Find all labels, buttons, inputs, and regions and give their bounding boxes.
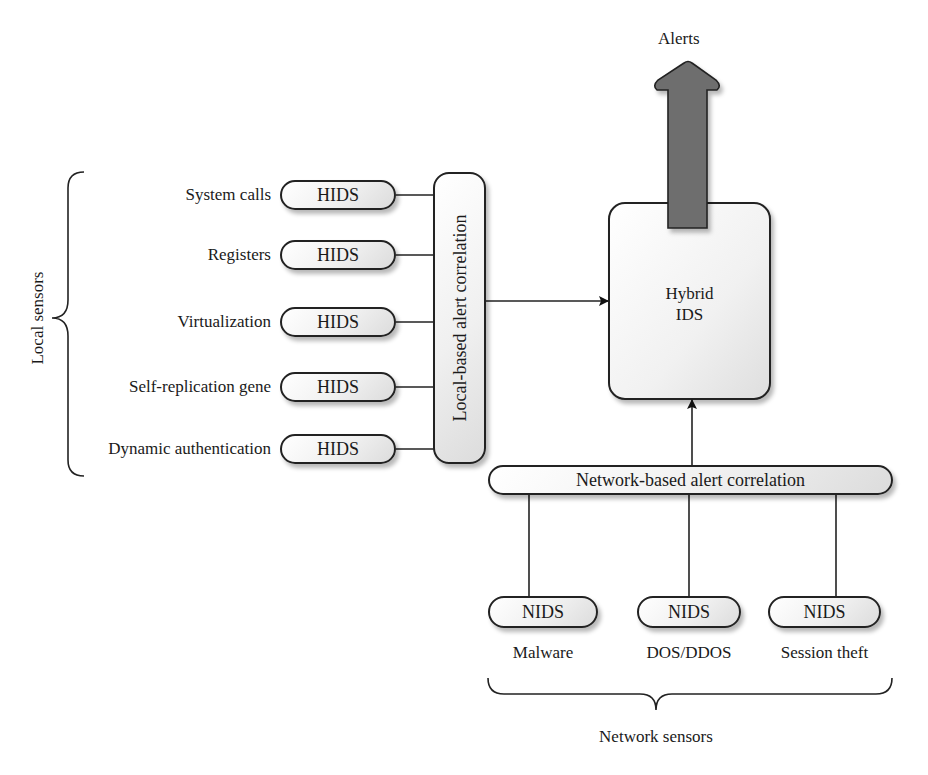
- network-sensors-label: Network sensors: [596, 728, 716, 745]
- hids-box: HIDS: [280, 434, 396, 464]
- local-alert-correlation-label: Local-based alert correlation: [449, 215, 470, 422]
- nids-box: NIDS: [768, 596, 881, 628]
- sensor-source-registers: Registers: [208, 246, 271, 263]
- sensor-source-session-theft: Session theft: [762, 644, 887, 661]
- sensor-source-system-calls: System calls: [186, 186, 271, 203]
- hids-box: HIDS: [280, 180, 396, 210]
- hybrid-ids-label: Hybrid IDS: [609, 283, 770, 325]
- nids-box: NIDS: [637, 596, 741, 628]
- network-sensors-brace: [488, 678, 892, 710]
- sensor-source-self-replication-gene: Self-replication gene: [129, 378, 271, 395]
- nids-box: NIDS: [488, 596, 598, 628]
- sensor-source-malware: Malware: [488, 644, 598, 661]
- local-sensors-brace: [52, 172, 84, 476]
- hids-box: HIDS: [280, 240, 396, 270]
- hids-box: HIDS: [280, 307, 396, 337]
- network-alert-correlation-box: Network-based alert correlation: [488, 465, 893, 495]
- alerts-label: Alerts: [658, 30, 700, 47]
- hybrid-ids-diagram: Alerts Hybrid IDS Local sensors System c…: [0, 0, 928, 775]
- local-sensors-label: Local sensors: [28, 258, 48, 378]
- hids-box: HIDS: [280, 372, 396, 402]
- sensor-source-dynamic-authentication: Dynamic authentication: [108, 440, 271, 457]
- sensor-source-dos-ddos: DOS/DDOS: [628, 644, 750, 661]
- local-alert-correlation-box: Local-based alert correlation: [433, 172, 486, 464]
- sensor-source-virtualization: Virtualization: [178, 313, 271, 330]
